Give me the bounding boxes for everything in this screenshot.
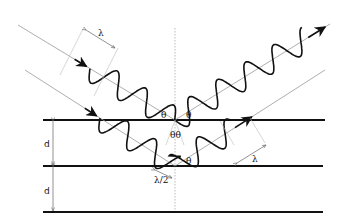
- ray-1-incident: [18, 25, 175, 120]
- lambda-right-label: λ: [252, 154, 258, 164]
- ray-2-incident-arrow-icon: [85, 108, 97, 116]
- half-wavelength-marker: λ/2: [154, 170, 172, 185]
- wavelength-marker-top: λ: [60, 27, 118, 96]
- half-lambda-label: λ/2: [154, 175, 168, 185]
- ray-1-reflected: [175, 24, 330, 120]
- ray-1-reflected-arrow-icon: [308, 27, 325, 38]
- lattice-planes: [43, 120, 325, 212]
- ray-1-incident-arrow-icon: [75, 59, 87, 66]
- lambda-top-label: λ: [98, 28, 104, 38]
- ray-2-reflected-arrow-icon: [235, 117, 252, 128]
- wavelength-marker-right: λ: [220, 118, 266, 164]
- x-ray-beams: [18, 24, 330, 169]
- theta-pair-label: θθ: [170, 130, 181, 140]
- d-upper-label: d: [44, 139, 50, 149]
- ray-1-wave: [89, 27, 302, 126]
- theta-left-label: θ: [161, 110, 166, 120]
- bragg-diffraction-diagram: d d λ λ λ/2 θ θ θθ θ: [0, 0, 347, 224]
- theta-right-label: θ: [186, 110, 191, 120]
- d-lower-label: d: [44, 186, 50, 196]
- theta-lower-label: θ: [186, 156, 191, 166]
